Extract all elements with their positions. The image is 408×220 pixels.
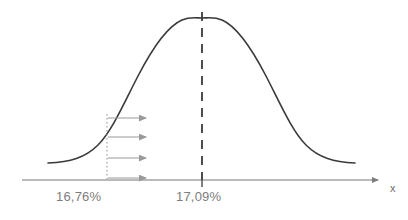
mean-tick-label: 17,09% [176, 189, 221, 204]
chart-canvas [0, 0, 408, 220]
lower-bound-tick-label: 16,76% [56, 189, 101, 204]
x-axis-label: x [390, 182, 396, 194]
normal-distribution-figure: 16,76% 17,09% x [0, 0, 408, 220]
